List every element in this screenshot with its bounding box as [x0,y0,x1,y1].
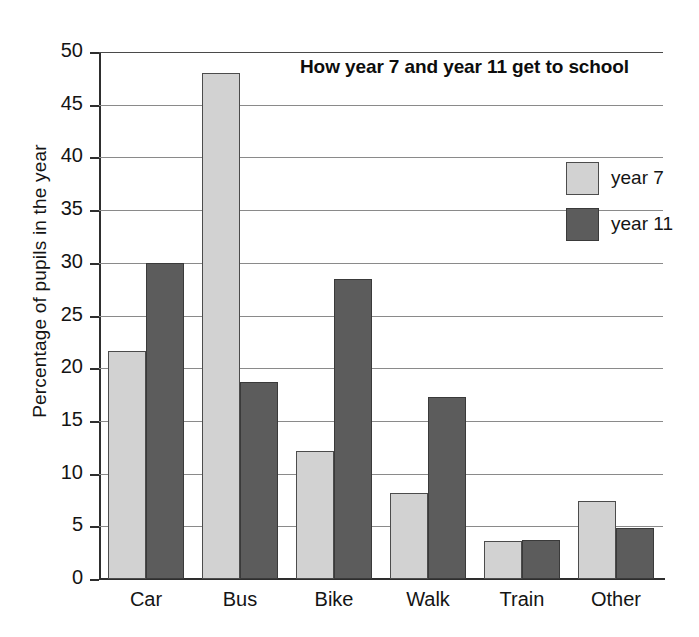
y-tick-mark [90,105,99,107]
legend-item-year-7: year 7 [566,155,673,201]
legend-swatch-year-11 [566,208,599,241]
bar-bike-year-11 [334,279,372,579]
y-tick-label: 50 [37,39,83,62]
plot-area [99,52,663,579]
y-tick-label: 20 [37,355,83,378]
x-tick-label-bike: Bike [287,588,381,611]
bar-car-year-11 [146,263,184,579]
y-tick-mark [90,368,99,370]
bar-other-year-7 [578,501,616,579]
y-tick-mark [90,474,99,476]
legend-item-year-11: year 11 [566,201,673,247]
bar-bike-year-7 [296,451,334,579]
y-tick-label: 15 [37,408,83,431]
y-tick-label: 35 [37,197,83,220]
y-tick-label: 45 [37,92,83,115]
legend-label: year 11 [611,213,673,235]
bar-chart: Percentage of pupils in the year 0510152… [0,0,699,637]
y-tick-label: 10 [37,461,83,484]
y-tick-label: 25 [37,303,83,326]
x-tick-label-train: Train [475,588,569,611]
x-tick-label-walk: Walk [381,588,475,611]
y-tick-mark [90,52,99,54]
y-tick-label: 0 [37,566,83,589]
y-tick-mark [90,210,99,212]
y-tick-label: 5 [37,513,83,536]
chart-title: How year 7 and year 11 get to school [300,56,629,78]
y-tick-label: 40 [37,144,83,167]
y-tick-mark [90,421,99,423]
legend: year 7year 11 [566,155,673,247]
bar-bus-year-7 [202,73,240,579]
x-tick-label-car: Car [99,588,193,611]
y-tick-mark [90,316,99,318]
bar-train-year-11 [522,540,560,579]
bar-walk-year-7 [390,493,428,579]
bar-train-year-7 [484,541,522,579]
y-tick-label: 30 [37,250,83,273]
bar-bus-year-11 [240,382,278,579]
bar-car-year-7 [108,351,146,579]
bar-walk-year-11 [428,397,466,579]
y-tick-mark [90,526,99,528]
x-tick-label-bus: Bus [193,588,287,611]
bar-other-year-11 [616,528,654,579]
y-tick-mark [90,579,99,581]
bar-series-layer [99,52,663,579]
legend-swatch-year-7 [566,162,599,195]
x-tick-label-other: Other [569,588,663,611]
y-tick-mark [90,157,99,159]
y-tick-mark [90,263,99,265]
legend-label: year 7 [611,167,664,189]
